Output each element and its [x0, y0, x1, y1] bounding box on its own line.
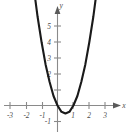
y-tick-label: -1 — [45, 117, 51, 126]
x-tick-label: -3 — [7, 111, 13, 120]
x-tick-label: 3 — [102, 111, 107, 120]
coordinate-plane-svg: x y -3 -2 -1 1 2 3 — [0, 0, 132, 137]
parabola-graph-figure: x y -3 -2 -1 1 2 3 — [0, 0, 132, 137]
y-tick-label: 3 — [46, 54, 51, 63]
x-axis-arrow-icon — [113, 103, 121, 109]
parabola-curve — [27, 0, 105, 113]
x-tick-label: 2 — [87, 111, 91, 120]
x-axis-group: x — [4, 101, 126, 110]
x-tick-label: -2 — [23, 111, 29, 120]
y-tick-label: 4 — [47, 38, 51, 47]
y-tick-label: 5 — [47, 22, 51, 31]
y-axis-label: y — [59, 1, 64, 10]
x-axis-label: x — [121, 101, 126, 110]
x-tick-label: 1 — [71, 111, 75, 120]
